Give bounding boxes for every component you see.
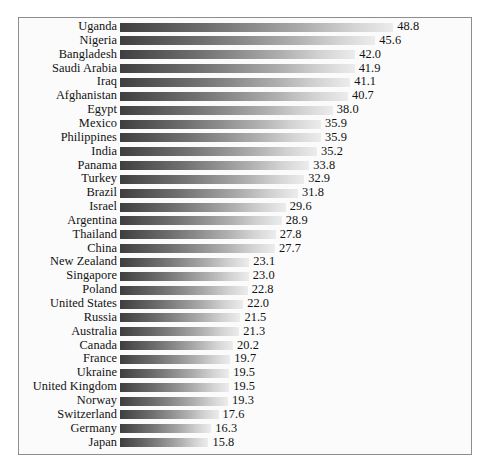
category-label: Japan [89, 436, 117, 450]
chart-row: Argentina28.9 [0, 214, 487, 228]
chart-row: Philippines35.9 [0, 131, 487, 145]
bar [120, 78, 350, 87]
chart-row: Australia21.3 [0, 325, 487, 339]
bar [120, 341, 233, 350]
bar [120, 216, 282, 225]
chart-row: Germany16.3 [0, 422, 487, 436]
bar [120, 203, 286, 212]
category-label: India [91, 145, 117, 159]
bar [120, 189, 298, 198]
category-label: Norway [77, 394, 117, 408]
chart-row: Thailand27.8 [0, 228, 487, 242]
bar-value-label: 35.2 [321, 145, 343, 159]
chart-row: Norway19.3 [0, 394, 487, 408]
chart-row: Mexico35.9 [0, 117, 487, 131]
bar-value-label: 16.3 [215, 422, 237, 436]
category-label: Russia [84, 311, 117, 325]
chart-row: Singapore23.0 [0, 269, 487, 283]
category-label: Mexico [79, 117, 117, 131]
bar [120, 397, 228, 406]
bar [120, 133, 321, 142]
bar-chart-figure: Uganda48.8Nigeria45.6Bangladesh42.0Saudi… [0, 0, 487, 474]
bar-value-label: 19.3 [232, 394, 254, 408]
bar [120, 383, 229, 392]
category-label: Argentina [67, 214, 117, 228]
chart-row: Saudi Arabia41.9 [0, 62, 487, 76]
chart-row: Russia21.5 [0, 311, 487, 325]
bar-value-label: 21.5 [244, 311, 266, 325]
bar [120, 36, 375, 45]
bar [120, 23, 393, 32]
bar [120, 438, 208, 447]
bar [120, 369, 229, 378]
bar [120, 313, 240, 322]
bar-value-label: 17.6 [223, 408, 245, 422]
category-label: Switzerland [57, 408, 117, 422]
bar [120, 300, 243, 309]
bar [120, 64, 355, 73]
category-label: Philippines [61, 131, 117, 145]
bar [120, 50, 355, 59]
bar-value-label: 28.9 [286, 214, 308, 228]
bar-value-label: 42.0 [359, 48, 381, 62]
bar [120, 92, 348, 101]
bar-value-label: 35.9 [325, 131, 347, 145]
category-label: Nigeria [79, 34, 117, 48]
bar-value-label: 27.8 [280, 228, 302, 242]
bar [120, 175, 304, 184]
bar [120, 120, 321, 129]
category-label: Germany [71, 422, 117, 436]
bar-value-label: 45.6 [379, 34, 401, 48]
bar [120, 258, 249, 267]
chart-row: Afghanistan40.7 [0, 89, 487, 103]
bar [120, 327, 239, 336]
chart-row: Japan15.8 [0, 436, 487, 450]
chart-row: Switzerland17.6 [0, 408, 487, 422]
category-label: Bangladesh [59, 48, 117, 62]
bar [120, 161, 309, 170]
chart-row: Uganda48.8 [0, 20, 487, 34]
chart-row: Nigeria45.6 [0, 34, 487, 48]
bar [120, 244, 275, 253]
bar [120, 286, 248, 295]
chart-row: Panama33.8 [0, 159, 487, 173]
category-label: Thailand [73, 228, 117, 242]
bar-value-label: 15.8 [212, 436, 234, 450]
chart-row: Bangladesh42.0 [0, 48, 487, 62]
chart-row: India35.2 [0, 145, 487, 159]
bar [120, 106, 333, 115]
bar [120, 424, 211, 433]
bar-value-label: 27.7 [279, 242, 301, 256]
bar [120, 410, 219, 419]
bar-value-label: 21.3 [243, 325, 265, 339]
chart-row: Brazil31.8 [0, 186, 487, 200]
bar-rows-container: Uganda48.8Nigeria45.6Bangladesh42.0Saudi… [0, 0, 487, 474]
bar [120, 230, 276, 239]
bar [120, 272, 249, 281]
chart-row: Egypt38.0 [0, 103, 487, 117]
chart-row: Turkey32.9 [0, 172, 487, 186]
bar [120, 355, 230, 364]
bar-value-label: 35.9 [325, 117, 347, 131]
category-label: Australia [71, 325, 117, 339]
bar [120, 147, 317, 156]
